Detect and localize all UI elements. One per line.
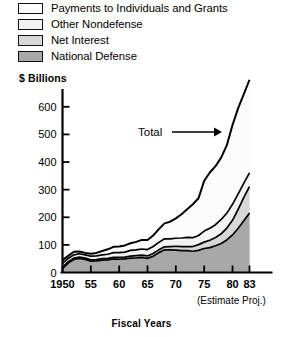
x-axis-title: Fiscal Years bbox=[0, 318, 283, 329]
x-tick-label: 75 bbox=[198, 278, 210, 290]
total-annotation: Total bbox=[138, 126, 222, 138]
y-tick-label: 400 bbox=[38, 156, 56, 168]
y-axis-ticks: 0100200300400500600 bbox=[38, 101, 69, 279]
chart-plot-area: 0100200300400500600 195055606570758083 T… bbox=[0, 0, 283, 300]
y-tick-label: 200 bbox=[38, 211, 56, 223]
x-tick-label: 80 bbox=[226, 278, 238, 290]
chart-figure: Payments to Individuals and Grants Other… bbox=[0, 0, 283, 337]
x-tick-label: 65 bbox=[141, 278, 153, 290]
x-tick-label: 55 bbox=[85, 278, 97, 290]
stacked-area-series bbox=[63, 80, 250, 273]
x-tick-label: 1950 bbox=[50, 278, 74, 290]
x-tick-label: 70 bbox=[170, 278, 182, 290]
total-annotation-label: Total bbox=[138, 126, 162, 138]
x-tick-label: 60 bbox=[113, 278, 125, 290]
y-tick-label: 300 bbox=[38, 184, 56, 196]
y-tick-label: 600 bbox=[38, 101, 56, 113]
y-tick-label: 500 bbox=[38, 128, 56, 140]
estimate-note: (Estimate Proj.) bbox=[197, 295, 266, 306]
total-annotation-arrowhead bbox=[214, 128, 222, 137]
x-tick-label: 83 bbox=[243, 278, 255, 290]
y-tick-label: 100 bbox=[38, 239, 56, 251]
